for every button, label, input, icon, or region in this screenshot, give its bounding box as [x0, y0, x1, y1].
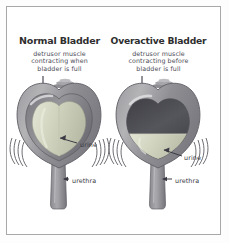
label-urine-overactive: urine [184, 154, 201, 162]
caption-line-2: contracting before [106, 57, 211, 64]
contraction-lines-icon-right [191, 138, 208, 167]
normal-bladder-illustration: urine urethra [7, 76, 112, 216]
panel-title-overactive: Overactive Bladder [106, 35, 211, 46]
caption-line-3: bladder is full [7, 65, 112, 72]
label-urethra-normal: urethra [72, 177, 96, 185]
caption-line-1: detrusor muscle [7, 50, 112, 57]
panel-overactive-bladder: Overactive Bladder detrusor muscle contr… [106, 8, 211, 223]
caption-line-3: bladder is full [106, 65, 211, 72]
panel-caption-normal: detrusor muscle contracting when bladder… [7, 50, 112, 72]
panel-normal-bladder: Normal Bladder detrusor muscle contracti… [7, 8, 112, 223]
panel-title-normal: Normal Bladder [7, 35, 112, 46]
urethra-highlight [55, 166, 56, 203]
bladder-comparison-figure: Normal Bladder detrusor muscle contracti… [0, 0, 229, 243]
contraction-lines-icon [109, 138, 126, 167]
label-urethra-overactive: urethra [175, 177, 199, 185]
overactive-bladder-svg [106, 76, 211, 216]
overactive-bladder-illustration: urine urethra [106, 76, 211, 216]
label-urine-normal: urine [80, 141, 97, 149]
urethra-highlight [154, 166, 155, 203]
contraction-lines-icon [10, 138, 27, 167]
caption-line-2: contracting when [7, 57, 112, 64]
caption-line-1: detrusor muscle [106, 50, 211, 57]
panel-caption-overactive: detrusor muscle contracting before bladd… [106, 50, 211, 72]
